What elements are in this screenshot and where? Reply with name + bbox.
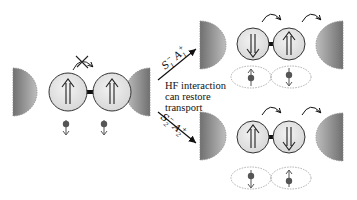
nuclear-bath-ellipse (271, 167, 311, 189)
nuclear-spin-down-icon (286, 68, 292, 86)
nuclear-spin-down-icon (63, 120, 69, 135)
tunneling-arrow-icon (262, 107, 280, 115)
blocked-tunneling-arrow-icon (73, 56, 92, 70)
tunneling-arrow-icon (302, 14, 320, 22)
quantum-dot-1 (237, 28, 269, 60)
initial-state-panel (13, 56, 150, 135)
caption-line-3: transport (165, 102, 226, 113)
caption-line-2: can restore (165, 91, 226, 102)
caption-line-1: HF interaction (165, 80, 226, 91)
svg-text:S1−A1+: S1−A1+ (158, 43, 190, 73)
tunneling-arrow-icon (262, 14, 280, 22)
operator-label-top: S1−A1+ (158, 43, 190, 73)
quantum-dot-2 (273, 121, 305, 153)
left-lead (200, 21, 226, 69)
nuclear-spin-up-icon (286, 170, 292, 187)
nuclear-spin-up-icon (248, 69, 254, 86)
left-lead (13, 68, 37, 116)
right-lead (316, 21, 343, 69)
nuclear-spin-down-icon (248, 170, 254, 188)
caption-text: HF interaction can restore transport (165, 80, 226, 113)
top-result-panel (200, 14, 343, 88)
nuclear-spin-down-icon (101, 120, 107, 135)
left-lead (200, 112, 226, 160)
bottom-result-panel (200, 107, 343, 189)
right-lead (316, 113, 343, 161)
tunneling-arrow-icon (302, 107, 320, 115)
